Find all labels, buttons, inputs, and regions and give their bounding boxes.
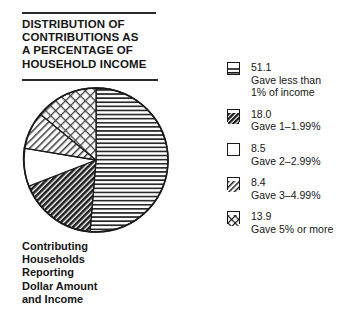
page-title-line-1: DISTRIBUTION OF <box>22 18 182 31</box>
pie-slice-gave-less-than-1pct <box>90 88 168 232</box>
chart-panel: DISTRIBUTION OF CONTRIBUTIONS AS A PERCE… <box>0 0 190 309</box>
pie-caption-line-3: Reporting <box>22 266 182 279</box>
legend-value: 51.1 <box>251 61 355 74</box>
title-rule-bottom <box>22 79 158 81</box>
page-title: DISTRIBUTION OF CONTRIBUTIONS AS A PERCE… <box>22 18 182 71</box>
legend-label-line-1: Gave 5% or more <box>251 223 355 236</box>
legend-swatch-cross-hatch-stipple-icon <box>227 211 240 224</box>
legend-label-line-1: Gave 2–2.99% <box>251 155 355 168</box>
pie-caption-line-5: and Income <box>22 293 182 306</box>
legend-text: 51.1 Gave less than 1% of income <box>251 61 355 99</box>
legend-label-line-2: 1% of income <box>251 86 355 99</box>
legend-text: 18.0 Gave 1–1.99% <box>251 108 355 133</box>
pie-chart-svg <box>21 85 171 235</box>
legend-label-line-1: Gave 1–1.99% <box>251 120 355 133</box>
title-rule-top <box>22 12 156 14</box>
legend-label-line-1: Gave less than <box>251 74 355 87</box>
legend-swatch-horizontal-lines-icon <box>227 62 240 75</box>
legend-label-line-1: Gave 3–4.99% <box>251 189 355 202</box>
legend-item: 8.4 Gave 3–4.99% <box>227 176 355 201</box>
legend-item: 51.1 Gave less than 1% of income <box>227 61 355 99</box>
legend-item: 18.0 Gave 1–1.99% <box>227 108 355 133</box>
legend-value: 8.4 <box>251 176 355 189</box>
legend-item: 13.9 Gave 5% or more <box>227 210 355 235</box>
legend-swatch-dense-diagonal-hatch-icon <box>227 109 240 122</box>
legend-value: 18.0 <box>251 108 355 121</box>
legend-swatch-solid-white-icon <box>227 143 240 156</box>
legend-swatch-light-diagonal-hatch-icon <box>227 177 240 190</box>
legend-text: 8.5 Gave 2–2.99% <box>251 142 355 167</box>
pie-caption-line-2: Households <box>22 253 182 266</box>
page-title-line-2: CONTRIBUTIONS AS <box>22 31 182 44</box>
page-title-line-4: HOUSEHOLD INCOME <box>22 58 182 71</box>
legend-text: 13.9 Gave 5% or more <box>251 210 355 235</box>
chart-legend: 51.1 Gave less than 1% of income 18.0 Ga… <box>227 61 355 245</box>
legend-value: 13.9 <box>251 210 355 223</box>
pie-caption-line-4: Dollar Amount <box>22 280 182 293</box>
pie-chart-caption: Contributing Households Reporting Dollar… <box>22 240 182 306</box>
pie-chart <box>21 85 171 235</box>
legend-value: 8.5 <box>251 142 355 155</box>
pie-caption-line-1: Contributing <box>22 240 182 253</box>
page-title-line-3: A PERCENTAGE OF <box>22 44 182 57</box>
legend-text: 8.4 Gave 3–4.99% <box>251 176 355 201</box>
legend-item: 8.5 Gave 2–2.99% <box>227 142 355 167</box>
